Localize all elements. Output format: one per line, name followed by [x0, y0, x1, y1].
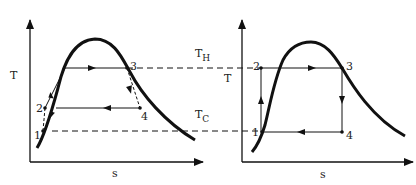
arrow-right-icon [88, 65, 96, 71]
arrow-up-icon [258, 96, 264, 104]
left-saturation-dome [37, 39, 195, 148]
right-point-4 [340, 130, 344, 134]
right-point-3-label: 3 [346, 60, 353, 73]
right-point-2-label: 2 [253, 60, 260, 73]
right-x-axis-label: s [320, 168, 326, 181]
arrow-left-icon [297, 129, 305, 135]
reference-lines: TH TC [52, 47, 262, 131]
left-point-3-label: 3 [130, 60, 137, 73]
left-point-1 [41, 129, 45, 133]
arrow-left-icon [103, 105, 111, 111]
right-point-3 [340, 66, 344, 70]
arrow-down-icon [339, 96, 345, 104]
right-point-1-label: 1 [252, 126, 259, 139]
th-label: TH [195, 47, 210, 63]
left-point-1-label: 1 [34, 129, 41, 142]
left-y-axis-label: T [10, 69, 18, 82]
right-diagram: T s 1 2 3 4 [224, 20, 413, 181]
right-saturation-dome [252, 42, 405, 152]
left-point-4-label: 4 [141, 110, 148, 123]
right-point-4-label: 4 [346, 129, 353, 142]
ts-diagrams: T s 1 2 3 4 TH TC T s [0, 0, 416, 185]
tc-label: TC [195, 108, 209, 124]
right-y-axis-label: T [224, 72, 232, 85]
right-point-1 [260, 130, 264, 134]
left-x-axis-label: s [112, 167, 118, 180]
left-point-2-label: 2 [36, 102, 43, 115]
left-diagram: T s 1 2 3 4 [10, 20, 203, 180]
arrow-down-icon [126, 85, 134, 94]
arrow-right-icon [308, 65, 316, 71]
left-point-2 [43, 106, 47, 110]
